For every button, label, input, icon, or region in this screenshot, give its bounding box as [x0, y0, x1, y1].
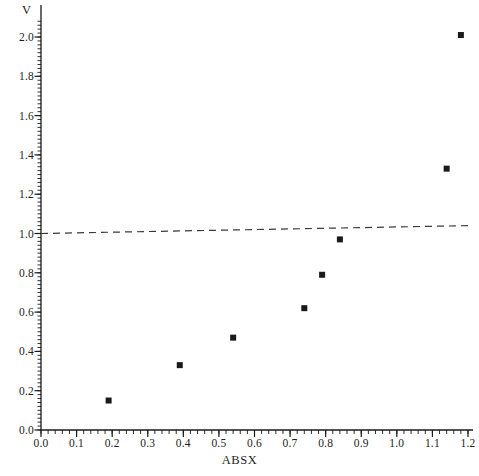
- plot-area: [0, 0, 479, 476]
- data-point-marker: [444, 166, 450, 172]
- x-axis-tick-label: 0.9: [354, 437, 369, 449]
- data-point-marker: [319, 272, 325, 278]
- y-axis-tick-label: 0.4: [4, 345, 34, 357]
- x-axis-tick-label: 0.1: [69, 437, 84, 449]
- y-axis-tick-label: 1.6: [4, 110, 34, 122]
- y-axis-tick-label: 0.2: [4, 385, 34, 397]
- reference-dashed-line: [41, 226, 468, 234]
- y-axis-tick-label: 0.6: [4, 306, 34, 318]
- x-axis-tick-label: 1.1: [425, 437, 440, 449]
- data-point-marker: [230, 335, 236, 341]
- scatter-chart: V ABSX 0.00.20.40.60.81.01.21.41.61.82.0…: [0, 0, 479, 476]
- y-axis-tick-label: 1.0: [4, 228, 34, 240]
- data-point-marker: [177, 362, 183, 368]
- data-point-marker: [337, 236, 343, 242]
- x-axis-tick-label: 0.7: [283, 437, 298, 449]
- x-axis-tick-label: 0.0: [34, 437, 49, 449]
- data-point-marker: [106, 398, 112, 404]
- y-axis-tick-label: 2.0: [4, 31, 34, 43]
- data-point-marker: [458, 32, 464, 38]
- x-axis-tick-label: 0.3: [140, 437, 155, 449]
- y-axis-title: V: [22, 3, 32, 18]
- x-axis-tick-label: 0.2: [105, 437, 120, 449]
- y-axis-tick-label: 0.8: [4, 267, 34, 279]
- x-axis-tick-label: 1.2: [461, 437, 476, 449]
- x-axis-tick-label: 1.0: [389, 437, 404, 449]
- x-axis-tick-label: 0.4: [176, 437, 191, 449]
- x-axis-tick-label: 0.6: [247, 437, 262, 449]
- x-axis-tick-label: 0.8: [318, 437, 333, 449]
- x-axis-title: ABSX: [0, 453, 479, 468]
- y-axis-tick-label: 1.8: [4, 70, 34, 82]
- x-axis-tick-label: 0.5: [211, 437, 226, 449]
- y-axis-tick-label: 0.0: [4, 424, 34, 436]
- data-point-marker: [301, 305, 307, 311]
- y-axis-tick-label: 1.2: [4, 188, 34, 200]
- y-axis-tick-label: 1.4: [4, 149, 34, 161]
